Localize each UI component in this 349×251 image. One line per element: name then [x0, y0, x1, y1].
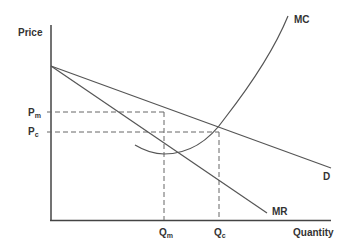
qm-label-sub: m — [167, 232, 173, 239]
qc-label: Qc — [214, 227, 226, 239]
mr-label: MR — [272, 206, 288, 217]
demand-curve — [51, 66, 331, 168]
demand-label: D — [323, 171, 330, 182]
marginal-cost-curve — [135, 16, 288, 154]
pc-label-sub: c — [35, 131, 39, 138]
pm-label: Pm — [28, 107, 41, 119]
mc-label: MC — [294, 14, 310, 25]
x-axis-label: Quantity — [293, 227, 334, 238]
pc-label: Pc — [28, 126, 39, 138]
marginal-revenue-curve — [51, 66, 267, 213]
qc-label-sub: c — [222, 232, 226, 239]
monopoly-diagram: Price Quantity MC D MR Pm Pc Qm Qc — [0, 0, 349, 251]
qm-label: Qm — [159, 227, 173, 239]
y-axis-label: Price — [18, 27, 43, 38]
pm-label-sub: m — [35, 112, 41, 119]
